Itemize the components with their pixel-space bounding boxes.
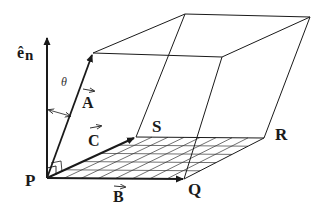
top-face — [93, 14, 310, 57]
vector-B-arrow — [47, 178, 183, 179]
vector-B-overarrow — [114, 186, 125, 187]
grid-line-diagonal — [98, 137, 184, 178]
point-P-label: P — [25, 171, 35, 190]
point-R-label: R — [275, 125, 288, 144]
vector-A-overarrow — [83, 89, 94, 91]
vector-A-label: A — [82, 94, 94, 111]
edge-Q-R — [184, 138, 264, 179]
grid-line-diagonal — [64, 137, 152, 178]
edge-S-R — [136, 137, 264, 138]
point-Q-label: Q — [188, 180, 201, 199]
point-S-label: S — [152, 117, 161, 136]
theta-angle-indicator — [49, 110, 70, 116]
normal-label: ên — [17, 44, 34, 63]
vector-C-label: C — [88, 132, 100, 149]
vector-C-overarrow — [90, 126, 101, 128]
vector-B-label: B — [113, 188, 124, 205]
grid-line-diagonal — [133, 138, 216, 179]
theta-label: θ — [61, 75, 67, 89]
parallelepiped-diagram: ên θ A C B P Q R S — [0, 0, 325, 216]
grid-line-diagonal — [167, 138, 248, 179]
grid-line-diagonal — [116, 138, 201, 179]
